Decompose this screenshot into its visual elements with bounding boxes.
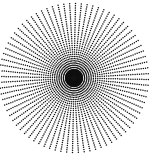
- radial-dot-starburst: [0, 0, 149, 156]
- dotted-rays: [0, 3, 149, 153]
